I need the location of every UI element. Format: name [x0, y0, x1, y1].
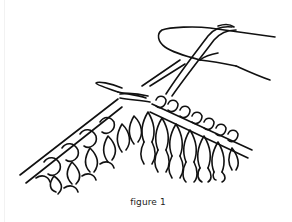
left-needle-icon [20, 99, 252, 183]
knitted-fabric-left-icon [36, 116, 141, 194]
figure: figure 1 [0, 0, 292, 222]
finger-icon [158, 27, 275, 80]
knitting-illustration-icon [0, 0, 292, 222]
figure-caption-text: figure 1 [130, 197, 166, 207]
figure-caption: figure 1 [0, 197, 292, 207]
